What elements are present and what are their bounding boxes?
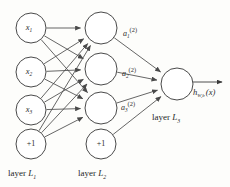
layer-caption-l2: layer L2	[78, 168, 106, 180]
edge	[117, 90, 158, 103]
node-hidden-1	[85, 12, 117, 44]
edge	[114, 38, 160, 72]
node-output-1	[161, 68, 193, 100]
node-label-bias-2: +1	[97, 139, 106, 148]
edge	[44, 39, 84, 64]
activation-a2: a2(2)	[122, 66, 136, 79]
neural-network-diagram: x1x2x3+1+1 a1(2)a2(2)a3(2) layer L1layer…	[0, 0, 230, 187]
activation-labels: a1(2)a2(2)a3(2)	[121, 26, 137, 113]
edge	[44, 79, 83, 102]
nodes-group: x1x2x3+1+1	[16, 12, 193, 159]
activation-a1: a1(2)	[123, 26, 137, 39]
layer-caption-l1: layer L1	[8, 168, 36, 180]
hypothesis-label: hW,b(x)	[193, 87, 215, 99]
activation-a3: a3(2)	[121, 100, 135, 113]
node-hidden-3	[85, 92, 117, 124]
layer-caption-l3: layer L3	[152, 112, 180, 124]
edge	[45, 117, 83, 137]
node-label-bias-1: +1	[27, 139, 36, 148]
node-hidden-2	[85, 53, 117, 85]
edges-input-to-hidden	[39, 28, 90, 137]
edge	[45, 79, 83, 99]
network-svg: x1x2x3+1+1 a1(2)a2(2)a3(2) layer L1layer…	[0, 0, 230, 187]
